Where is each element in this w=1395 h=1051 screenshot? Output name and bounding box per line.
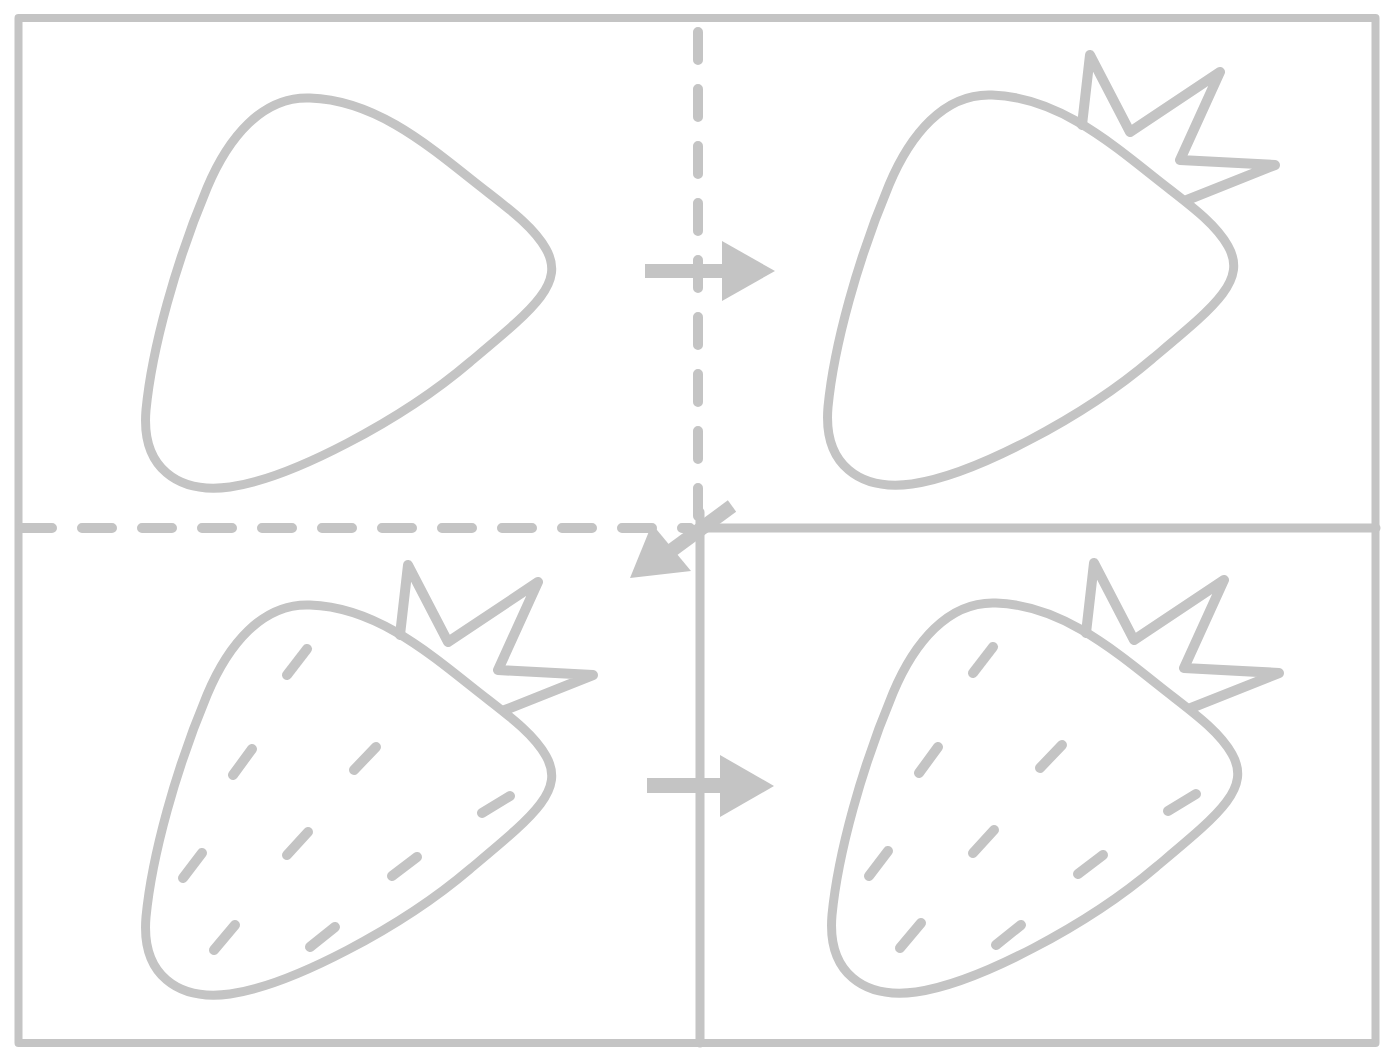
panel-step-3: Step 3: add seed marks on body <box>146 565 593 995</box>
strawberry-body-outline <box>832 603 1238 993</box>
panel-step-1: Step 1: rounded triangle body outline <box>146 98 552 488</box>
strawberry-body-outline <box>146 605 552 995</box>
arrow-right-icon <box>647 755 774 817</box>
strawberry-crown-leaves <box>400 565 593 710</box>
strawberry-crown-leaves <box>1082 55 1275 200</box>
arrow-down-left-icon <box>630 506 732 578</box>
panel-step-2: Step 2: add leafy crown on top <box>828 55 1275 485</box>
strawberry-body-outline <box>828 95 1234 485</box>
panel-step-4: Step 4: finished strawberry <box>832 563 1279 993</box>
strawberry-seed-marks <box>869 647 1196 948</box>
strawberry-drawing-diagram: How to draw a strawberry in four steps <box>0 0 1395 1051</box>
strawberry-crown-leaves <box>1086 563 1279 708</box>
strawberry-body-outline <box>146 98 552 488</box>
arrow-right-icon <box>645 241 775 301</box>
strawberry-seed-marks <box>183 649 510 950</box>
